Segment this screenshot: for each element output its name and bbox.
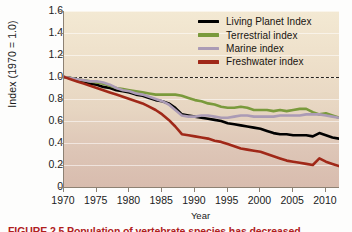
legend-item[interactable]: Living Planet Index bbox=[198, 15, 311, 28]
x-axis-label: Year bbox=[63, 210, 338, 221]
x-tick-mark bbox=[128, 187, 129, 192]
x-tick-mark bbox=[194, 187, 195, 192]
figure-caption: FIGURE 2.5 Population of vertebrate spec… bbox=[8, 225, 352, 232]
legend-swatch-icon bbox=[198, 60, 219, 63]
x-tick-mark bbox=[292, 187, 293, 192]
legend-item[interactable]: Freshwater index bbox=[198, 55, 311, 68]
x-tick-mark bbox=[325, 187, 326, 192]
legend-swatch-icon bbox=[198, 33, 219, 36]
figure-container: Index (1970 = 1.0) 00.20.40.60.81.01.21.… bbox=[0, 0, 352, 232]
x-tick-mark bbox=[227, 187, 228, 192]
legend-swatch-icon bbox=[198, 20, 219, 23]
chart-legend: Living Planet IndexTerrestrial indexMari… bbox=[198, 15, 311, 69]
x-tick-mark bbox=[63, 187, 64, 192]
series-line bbox=[64, 77, 339, 139]
legend-label: Freshwater index bbox=[226, 56, 304, 67]
legend-label: Terrestrial index bbox=[226, 30, 297, 41]
x-tick-mark bbox=[96, 187, 97, 192]
x-tick-label: 2010 bbox=[305, 194, 345, 206]
legend-swatch-icon bbox=[198, 47, 219, 50]
series-line bbox=[64, 77, 339, 118]
y-axis-label: Index (1970 = 1.0) bbox=[6, 0, 18, 144]
x-tick-mark bbox=[161, 187, 162, 192]
legend-item[interactable]: Terrestrial index bbox=[198, 28, 311, 41]
legend-label: Living Planet Index bbox=[226, 16, 311, 27]
legend-item[interactable]: Marine index bbox=[198, 42, 311, 55]
series-line bbox=[64, 77, 339, 166]
x-tick-mark bbox=[259, 187, 260, 192]
legend-label: Marine index bbox=[226, 43, 284, 54]
